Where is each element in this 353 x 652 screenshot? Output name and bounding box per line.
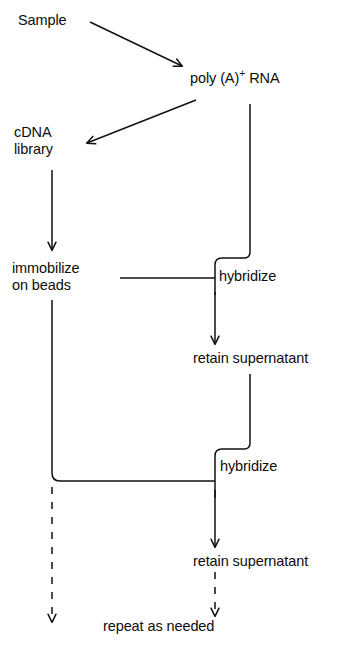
- edge-sample-to-polya: [90, 22, 182, 66]
- node-poly-a-rna-prefix: poly (A): [190, 70, 239, 86]
- node-cdna-library-line2: library: [14, 141, 53, 158]
- node-retain-supernatant-2: retain supernatant: [193, 553, 308, 570]
- node-immobilize-on-beads-line2: on beads: [12, 277, 71, 294]
- node-poly-a-rna-suffix: RNA: [245, 70, 279, 86]
- edge-polya-to-cdna: [87, 100, 196, 143]
- node-retain-supernatant-1: retain supernatant: [193, 350, 308, 367]
- node-sample: Sample: [18, 12, 67, 29]
- edge-retain-1-down-to-hybridize-2: [215, 374, 250, 498]
- node-hybridize-2: hybridize: [220, 458, 277, 475]
- node-immobilize-on-beads-line1: immobilize: [12, 260, 80, 277]
- edge-polya-down-to-hybridize-1: [215, 104, 250, 295]
- flow-diagram: Sample poly (A)+ RNA cDNA library immobi…: [0, 0, 353, 652]
- edge-immobilize-down-to-hybridize-2: [52, 300, 215, 481]
- node-repeat-as-needed: repeat as needed: [103, 618, 214, 635]
- node-poly-a-rna: poly (A)+ RNA: [190, 70, 279, 87]
- node-cdna-library-line1: cDNA: [14, 124, 51, 141]
- node-hybridize-1: hybridize: [219, 268, 276, 285]
